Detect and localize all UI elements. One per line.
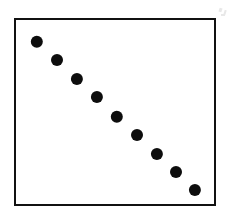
scan-artifact-icon — [218, 8, 222, 13]
scan-artifact-icon — [223, 10, 226, 15]
data-point — [51, 54, 63, 66]
plot-area — [16, 20, 214, 204]
data-point — [189, 184, 201, 196]
data-point — [91, 91, 103, 103]
scan-artifact-icon — [221, 14, 225, 16]
data-point — [111, 111, 123, 123]
data-point — [131, 129, 143, 141]
data-point — [170, 166, 182, 178]
plot-frame — [14, 18, 216, 206]
data-point — [31, 36, 43, 48]
scatter-plot-figure — [0, 0, 231, 219]
data-point — [151, 148, 163, 160]
data-point — [71, 73, 83, 85]
